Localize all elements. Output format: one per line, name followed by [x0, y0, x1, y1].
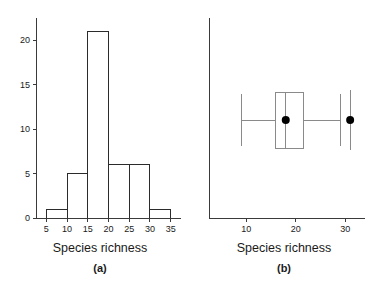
- panel-a-x-tick-label: 15: [83, 224, 93, 234]
- panel-b-x-tick-label: 20: [291, 224, 301, 234]
- panel-a-y-tick-label: 15: [20, 80, 30, 90]
- panel-a-y-tick-label: 0: [25, 213, 30, 223]
- boxplot-group: [241, 92, 340, 148]
- panel-a-x-tick-label: 25: [124, 224, 134, 234]
- panel-a-x-tick-label: 5: [44, 224, 49, 234]
- panel-a-x-tick-label: 35: [166, 224, 176, 234]
- histogram-bar: [46, 209, 67, 218]
- panel-b-x-tick-label: 10: [241, 224, 251, 234]
- histogram-bar-outline: [150, 209, 171, 218]
- histogram-bar: [109, 165, 130, 218]
- histogram-bar: [88, 31, 109, 218]
- panel-b-svg: 102030: [187, 0, 374, 283]
- boxplot-outlier-dot: [346, 116, 354, 124]
- histogram-bar-outline: [109, 165, 130, 218]
- histogram-bar-outline: [129, 165, 150, 218]
- figure-container: 051015205101520253035 Species richness (…: [0, 0, 374, 283]
- histogram-bar-outline: [67, 174, 88, 218]
- panel-b-boxplot: 102030 Species richness (b): [187, 0, 374, 283]
- histogram-bar-outline: [46, 209, 67, 218]
- panel-b-x-tick-label: 30: [340, 224, 350, 234]
- panel-a-histogram: 051015205101520253035 Species richness (…: [0, 0, 187, 283]
- panel-a-y-tick-label: 10: [20, 124, 30, 134]
- panel-a-svg: 051015205101520253035: [0, 0, 187, 283]
- histogram-bar-outline: [88, 31, 109, 218]
- histogram-bar: [150, 209, 171, 218]
- histogram-bar: [67, 174, 88, 218]
- panel-a-x-tick-label: 10: [62, 224, 72, 234]
- panel-a-x-tick-label: 30: [145, 224, 155, 234]
- histogram-bar: [129, 165, 150, 218]
- boxplot-mean-dot: [282, 116, 290, 124]
- panel-a-y-tick-label: 5: [25, 169, 30, 179]
- panel-a-x-tick-label: 20: [103, 224, 113, 234]
- panel-a-y-tick-label: 20: [20, 35, 30, 45]
